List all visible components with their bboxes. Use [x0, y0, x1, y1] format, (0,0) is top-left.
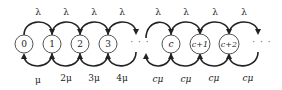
service-labels: μ 2μ 3μ 4μ cμ cμ cμ cμ	[35, 73, 254, 85]
state-node-c: c	[162, 35, 180, 53]
state-label: 0	[21, 39, 27, 49]
state-nodes: 0 1 2 3 · · · c c+1 c+2 · · ·	[15, 34, 272, 54]
arrival-arrow-2-3	[80, 22, 108, 35]
state-node-0: 0	[15, 35, 33, 53]
arrival-arrow-1-2	[52, 22, 80, 35]
arrival-arrow-c2-dots	[229, 22, 258, 35]
state-node-3: 3	[99, 35, 117, 53]
birth-death-diagram: 0 1 2 3 · · · c c+1 c+2 · · · λ	[0, 0, 282, 90]
arrival-labels: λ λ λ λ λ λ λ λ	[35, 7, 247, 17]
arrival-arrow-c1-c2	[200, 22, 229, 35]
lambda-label: λ	[183, 7, 189, 17]
lambda-label: λ	[63, 7, 69, 17]
lambda-label: λ	[119, 7, 125, 17]
mu-label: cμ	[153, 74, 164, 84]
lambda-label: λ	[91, 7, 97, 17]
lambda-label: λ	[212, 7, 218, 17]
mu-label: cμ	[181, 74, 192, 84]
lambda-label: λ	[241, 7, 247, 17]
state-node-2: 2	[71, 35, 89, 53]
state-label: 2	[77, 39, 83, 49]
state-label: 3	[105, 39, 111, 49]
lambda-label: λ	[35, 7, 41, 17]
lambda-label: λ	[155, 7, 161, 17]
state-label: 1	[49, 39, 55, 49]
state-label: c+1	[192, 40, 208, 49]
ellipsis-end: · · ·	[252, 37, 271, 47]
service-arrow-3-2	[80, 53, 108, 66]
mu-label: 2μ	[60, 73, 72, 83]
state-node-c-plus-2: c+2	[219, 34, 239, 54]
service-arrow-dots-c2	[229, 52, 258, 66]
service-arcs	[24, 52, 258, 66]
service-arrow-1-0	[24, 53, 52, 66]
arrival-arrow-3-dots	[108, 22, 136, 35]
service-arrow-dots-3	[108, 52, 136, 66]
service-arrow-c1-c	[171, 53, 200, 66]
arrival-arrow-0-1	[24, 22, 52, 35]
state-node-1: 1	[43, 35, 61, 53]
mu-label: 4μ	[116, 73, 128, 83]
state-node-c-plus-1: c+1	[190, 34, 210, 54]
service-arrow-c2-c1	[200, 53, 229, 66]
mu-label: cμ	[209, 73, 220, 83]
mu-label: cμ	[243, 73, 254, 83]
state-label: c	[168, 39, 173, 49]
mu-label: μ	[35, 75, 41, 85]
service-arrow-c-dots	[146, 53, 171, 66]
service-arrow-2-1	[52, 53, 80, 66]
state-label: c+2	[221, 40, 237, 49]
ellipsis-middle: · · ·	[130, 37, 149, 47]
arrival-arrow-c-c1	[171, 22, 200, 35]
mu-label: 3μ	[88, 73, 100, 83]
